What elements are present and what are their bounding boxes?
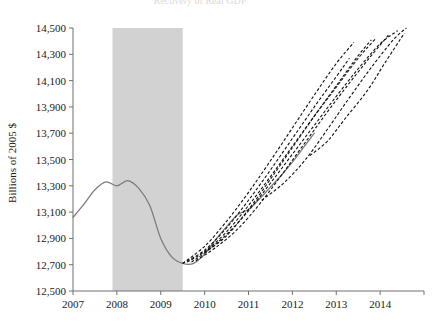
y-tick-label: 13,300 (36, 180, 67, 192)
y-tick-label: 13,900 (36, 101, 67, 113)
x-tick-label: 2007 (62, 298, 85, 310)
x-tick-label: 2010 (194, 298, 217, 310)
y-tick-label: 12,500 (36, 285, 67, 297)
recession-shading (112, 28, 182, 291)
x-tick-label: 2009 (150, 298, 173, 310)
x-tick-label: 2008 (106, 298, 129, 310)
y-tick-label: 13,500 (36, 154, 67, 166)
y-axis-title: Billions of 2005 $ (6, 123, 18, 203)
chart-title-group: Recovery of Real GDP (154, 0, 247, 6)
recession-band (112, 28, 182, 291)
y-tick-label: 13,100 (36, 206, 67, 218)
y-tick-label: 14,300 (36, 48, 67, 60)
y-tick-label: 12,900 (36, 232, 67, 244)
x-tick-label: 2012 (281, 298, 303, 310)
y-tick-label: 14,500 (36, 22, 67, 34)
chart-title: Recovery of Real GDP (154, 0, 247, 6)
x-tick-label: 2013 (325, 298, 348, 310)
x-tick-label: 2011 (238, 298, 260, 310)
chart-figure: Recovery of Real GDP 12,50012,70012,9001… (0, 0, 441, 325)
y-tick-label: 13,700 (36, 127, 67, 139)
x-tick-label: 2014 (369, 298, 392, 310)
y-tick-label: 14,100 (36, 75, 67, 87)
gdp-recovery-chart: Recovery of Real GDP 12,50012,70012,9001… (0, 0, 441, 325)
y-tick-label: 12,700 (36, 259, 67, 271)
